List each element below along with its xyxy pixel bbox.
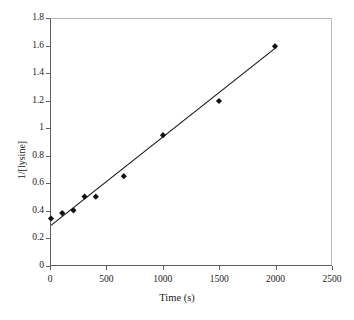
plot-canvas	[51, 19, 331, 265]
xtick-mark	[332, 266, 333, 270]
ytick-label: 1	[4, 123, 44, 133]
data-markers	[48, 43, 278, 221]
data-point-marker	[93, 194, 99, 200]
xtick-label: 0	[48, 275, 53, 285]
xtick-mark	[276, 266, 277, 270]
ytick-label: 1.8	[4, 13, 44, 23]
data-point-marker	[160, 132, 166, 138]
data-point-marker	[121, 173, 127, 179]
ytick-label: 0.2	[4, 234, 44, 244]
xtick-label: 500	[99, 275, 113, 285]
data-point-marker	[82, 194, 88, 200]
xtick-mark	[163, 266, 164, 270]
data-point-marker	[48, 215, 54, 221]
x-axis-title: Time (s)	[0, 292, 354, 303]
ytick-label: 1.2	[4, 96, 44, 106]
xtick-mark	[219, 266, 220, 270]
ytick-label: 1.6	[4, 41, 44, 51]
xtick-mark	[106, 266, 107, 270]
ytick-label: 0.4	[4, 206, 44, 216]
plot-area	[50, 18, 332, 266]
xtick-label: 2000	[266, 275, 285, 285]
chart-figure: 0 0.2 0.4 0.6 0.8 1 1.2 1.4 1.6 1.8 0 50…	[0, 0, 354, 320]
ytick-label: 0	[4, 261, 44, 271]
xtick-mark	[50, 266, 51, 270]
xtick-label: 1500	[210, 275, 229, 285]
data-point-marker	[272, 43, 278, 49]
data-point-marker	[70, 207, 76, 213]
y-axis-title: 1/[lysine]	[16, 141, 27, 179]
data-point-marker	[216, 98, 222, 104]
ytick-label: 1.4	[4, 68, 44, 78]
ytick-label: 0.6	[4, 179, 44, 189]
xtick-label: 2500	[323, 275, 342, 285]
xtick-label: 1000	[153, 275, 172, 285]
